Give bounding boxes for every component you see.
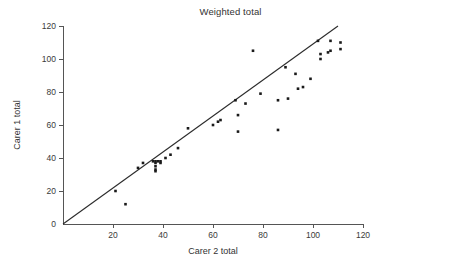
y-tick-label: 80 xyxy=(47,87,57,97)
data-point xyxy=(187,127,190,130)
y-tick-label: 120 xyxy=(42,21,56,31)
data-point xyxy=(284,66,287,69)
data-point xyxy=(277,129,280,132)
y-tick-label: 0 xyxy=(51,219,56,229)
data-point xyxy=(137,167,140,170)
data-point xyxy=(309,78,312,81)
data-point xyxy=(287,97,290,100)
data-point xyxy=(234,99,237,102)
x-tick-label: 120 xyxy=(356,230,370,240)
data-point xyxy=(169,153,172,156)
data-point xyxy=(302,86,305,89)
data-point xyxy=(252,49,255,52)
data-point xyxy=(237,130,240,133)
data-point xyxy=(327,51,330,54)
x-tick-label: 20 xyxy=(108,230,118,240)
data-point xyxy=(219,119,222,122)
data-point xyxy=(164,157,167,160)
data-point xyxy=(237,114,240,117)
data-point xyxy=(152,160,155,163)
data-point xyxy=(329,49,332,52)
data-point xyxy=(297,87,300,90)
data-point xyxy=(317,40,320,43)
y-tick-label: 60 xyxy=(47,120,57,130)
data-point xyxy=(259,92,262,95)
data-point xyxy=(114,190,117,193)
data-point xyxy=(157,160,160,163)
y-axis-title: Carer 1 total xyxy=(12,100,22,150)
data-point xyxy=(319,58,322,61)
data-point xyxy=(154,170,157,173)
x-tick-label: 80 xyxy=(258,230,268,240)
data-point xyxy=(154,162,157,165)
data-point xyxy=(217,120,220,123)
data-point xyxy=(142,162,145,165)
data-point xyxy=(339,41,342,44)
ticks-group xyxy=(59,26,363,228)
data-point xyxy=(154,165,157,168)
data-point xyxy=(124,203,127,206)
y-tick-label: 100 xyxy=(42,54,56,64)
data-point xyxy=(159,162,162,165)
y-tick-label: 40 xyxy=(47,153,57,163)
data-point xyxy=(277,99,280,102)
data-points xyxy=(114,40,342,206)
x-tick-label: 100 xyxy=(306,230,320,240)
data-point xyxy=(339,48,342,51)
data-point xyxy=(319,53,322,56)
data-point xyxy=(294,73,297,76)
y-tick-label: 20 xyxy=(47,186,57,196)
x-axis-title: Carer 2 total xyxy=(188,246,238,256)
data-point xyxy=(177,147,180,150)
data-point xyxy=(244,102,247,105)
data-point xyxy=(329,40,332,43)
reference-line xyxy=(63,26,338,224)
x-tick-label: 40 xyxy=(158,230,168,240)
equality-line xyxy=(63,26,338,224)
plot-area: 20406080100120020406080100120 Carer 2 to… xyxy=(0,0,461,265)
data-point xyxy=(212,124,215,127)
scatter-chart: Weighted total 2040608010012002040608010… xyxy=(0,0,461,265)
x-tick-label: 60 xyxy=(208,230,218,240)
